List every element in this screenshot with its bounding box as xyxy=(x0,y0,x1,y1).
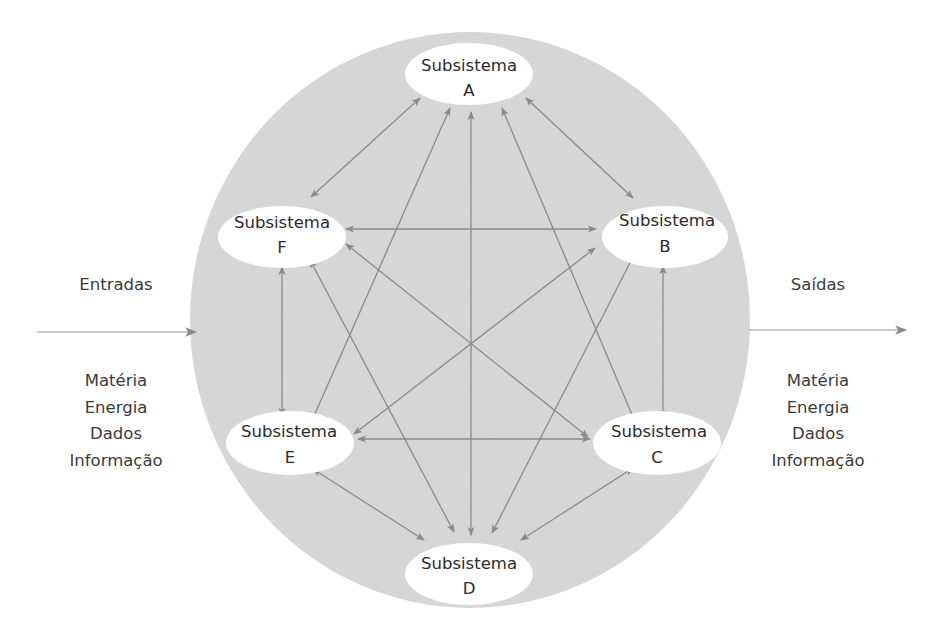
subsystem-node-e: Subsistema E xyxy=(226,411,354,475)
node-letter: A xyxy=(463,81,475,100)
outputs-item: Dados xyxy=(748,421,888,448)
outputs-title: Saídas xyxy=(758,275,878,294)
node-title: Subsistema xyxy=(241,422,337,441)
system-diagram: Subsistema A Subsistema B Subsistema C S… xyxy=(0,0,943,624)
subsystem-node-a: Subsistema A xyxy=(405,43,533,105)
node-title: Subsistema xyxy=(234,213,330,232)
node-letter: B xyxy=(659,237,670,256)
outputs-item: Matéria xyxy=(748,368,888,395)
node-letter: E xyxy=(285,448,295,467)
subsystem-node-f: Subsistema F xyxy=(218,206,346,268)
node-letter: D xyxy=(463,579,476,598)
subsystem-node-c: Subsistema C xyxy=(593,411,721,475)
subsystem-node-b: Subsistema B xyxy=(602,206,728,268)
subsystem-node-d: Subsistema D xyxy=(405,543,533,605)
outputs-item: Informação xyxy=(748,448,888,475)
outputs-item: Energia xyxy=(748,395,888,422)
inputs-list: Matéria Energia Dados Informação xyxy=(46,368,186,474)
inputs-title: Entradas xyxy=(56,275,176,294)
node-letter: F xyxy=(277,238,287,257)
node-letter: C xyxy=(651,448,663,467)
inputs-item: Informação xyxy=(46,448,186,475)
outputs-list: Matéria Energia Dados Informação xyxy=(748,368,888,474)
inputs-item: Energia xyxy=(46,395,186,422)
node-title: Subsistema xyxy=(611,422,707,441)
node-title: Subsistema xyxy=(619,211,715,230)
node-title: Subsistema xyxy=(421,554,517,573)
system-boundary xyxy=(190,32,750,608)
node-title: Subsistema xyxy=(421,56,517,75)
inputs-item: Matéria xyxy=(46,368,186,395)
inputs-item: Dados xyxy=(46,421,186,448)
